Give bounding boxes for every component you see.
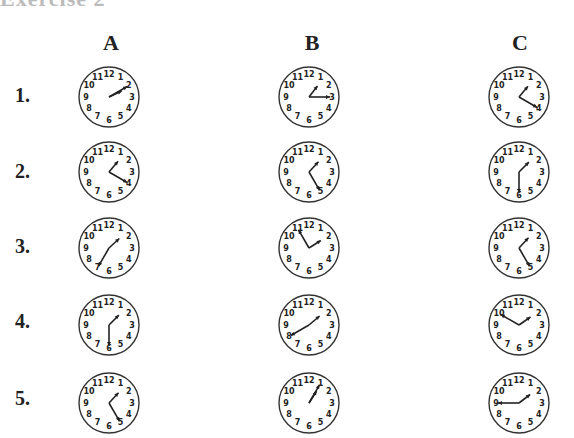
svg-text:11: 11 [502,301,514,310]
clock-face: 121234567891011 [76,215,142,281]
clock-face: 121234567891011 [276,370,342,436]
clock-face: 121234567891011 [76,64,142,130]
svg-text:11: 11 [92,73,104,82]
svg-text:10: 10 [84,309,96,318]
svg-text:3: 3 [329,399,335,408]
svg-text:9: 9 [493,168,499,177]
svg-text:11: 11 [292,379,304,388]
svg-text:4: 4 [126,410,132,419]
svg-text:9: 9 [83,93,89,102]
clock-face: 121234567891011 [486,139,552,205]
svg-text:2: 2 [536,387,542,396]
row-label-4: 4. [15,310,30,333]
row-label-1: 1. [15,84,30,107]
svg-text:3: 3 [129,399,135,408]
svg-text:6: 6 [516,116,522,125]
svg-text:8: 8 [496,104,502,113]
svg-text:12: 12 [513,221,524,230]
svg-text:10: 10 [84,387,96,396]
svg-text:11: 11 [92,379,104,388]
svg-text:12: 12 [103,145,114,154]
svg-text:11: 11 [502,224,514,233]
svg-text:5: 5 [528,187,534,196]
svg-text:6: 6 [106,116,112,125]
svg-text:3: 3 [539,244,545,253]
svg-text:12: 12 [513,376,524,385]
svg-text:12: 12 [513,145,524,154]
svg-text:4: 4 [326,332,332,341]
clock-face: 121234567891011 [76,370,142,436]
svg-text:6: 6 [306,191,312,200]
svg-text:11: 11 [292,224,304,233]
svg-text:9: 9 [493,321,499,330]
svg-text:4: 4 [126,255,132,264]
svg-text:1: 1 [528,148,534,157]
svg-text:11: 11 [92,224,104,233]
svg-text:3: 3 [539,168,545,177]
svg-text:7: 7 [95,112,101,121]
svg-text:5: 5 [528,418,534,427]
svg-text:8: 8 [496,410,502,419]
svg-text:1: 1 [528,301,534,310]
svg-text:8: 8 [86,179,92,188]
svg-text:3: 3 [539,93,545,102]
svg-text:12: 12 [513,70,524,79]
svg-text:1: 1 [118,301,124,310]
svg-text:8: 8 [496,179,502,188]
svg-text:6: 6 [306,344,312,353]
svg-text:4: 4 [536,332,542,341]
svg-text:3: 3 [539,399,545,408]
svg-text:10: 10 [494,387,506,396]
svg-text:10: 10 [84,232,96,241]
row-label-5: 5. [15,387,30,410]
svg-text:9: 9 [83,244,89,253]
svg-text:10: 10 [494,81,506,90]
svg-text:1: 1 [118,379,124,388]
svg-text:2: 2 [326,232,332,241]
svg-text:4: 4 [326,179,332,188]
svg-text:12: 12 [303,221,314,230]
svg-text:2: 2 [326,81,332,90]
svg-text:3: 3 [129,93,135,102]
svg-text:10: 10 [84,156,96,165]
svg-text:3: 3 [539,321,545,330]
svg-text:1: 1 [528,224,534,233]
svg-text:5: 5 [318,340,324,349]
svg-text:8: 8 [86,410,92,419]
svg-text:7: 7 [505,418,511,427]
clock-face: 121234567891011 [276,292,342,358]
svg-text:2: 2 [536,309,542,318]
svg-text:11: 11 [502,148,514,157]
svg-text:6: 6 [306,267,312,276]
svg-text:1: 1 [318,301,324,310]
svg-text:2: 2 [126,81,132,90]
svg-text:5: 5 [318,112,324,121]
clock-face: 121234567891011 [76,139,142,205]
column-header-c: C [505,30,535,56]
svg-text:3: 3 [129,244,135,253]
svg-text:11: 11 [92,148,104,157]
clock-face: 121234567891011 [486,215,552,281]
svg-text:4: 4 [126,332,132,341]
svg-text:6: 6 [106,267,112,276]
svg-text:4: 4 [326,104,332,113]
svg-text:7: 7 [295,112,301,121]
svg-text:4: 4 [536,104,542,113]
svg-text:9: 9 [283,244,289,253]
svg-text:4: 4 [326,410,332,419]
svg-text:11: 11 [92,301,104,310]
svg-text:9: 9 [283,93,289,102]
svg-text:7: 7 [505,187,511,196]
svg-text:1: 1 [118,148,124,157]
svg-text:9: 9 [83,399,89,408]
svg-text:6: 6 [516,267,522,276]
svg-text:12: 12 [103,70,114,79]
svg-text:5: 5 [528,112,534,121]
clock-face: 121234567891011 [276,64,342,130]
column-header-a: A [96,30,126,56]
svg-text:7: 7 [295,418,301,427]
svg-text:10: 10 [284,81,296,90]
svg-text:12: 12 [303,376,314,385]
svg-text:8: 8 [286,255,292,264]
svg-text:5: 5 [528,340,534,349]
